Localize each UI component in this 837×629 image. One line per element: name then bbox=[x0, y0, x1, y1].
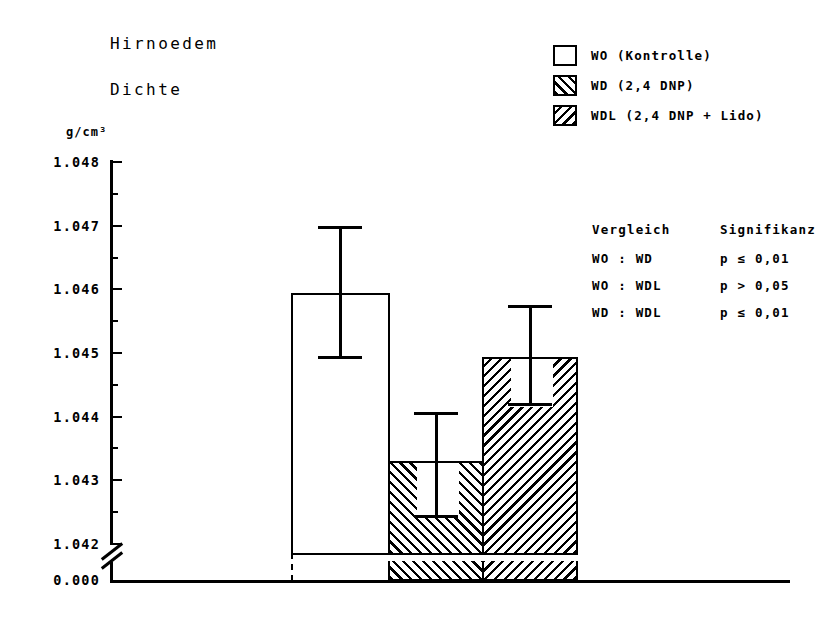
y-tick-major bbox=[113, 479, 122, 481]
error-bar-wo-stem bbox=[339, 226, 342, 358]
error-bar-wo-cap-lower bbox=[318, 356, 362, 359]
legend-swatch-wdl-icon bbox=[553, 105, 577, 126]
error-bar-wo-cap-upper bbox=[318, 226, 362, 229]
legend-label-wd: WD (2,4 DNP) bbox=[591, 78, 695, 93]
legend-swatch-wo-icon bbox=[553, 45, 577, 66]
significance-row: WO : WD p ≤ 0,01 bbox=[592, 251, 816, 266]
y-axis-line-lower bbox=[110, 562, 113, 582]
significance-table: Vergleich Signifikanz WO : WD p ≤ 0,01 W… bbox=[592, 222, 816, 332]
bar-wdl-errorbar-clearing bbox=[511, 359, 553, 407]
error-bar-wd-stem bbox=[435, 412, 438, 517]
significance-row: WO : WDL p > 0,05 bbox=[592, 278, 816, 293]
y-tick-minor bbox=[113, 384, 118, 386]
significance-header-significance: Signifikanz bbox=[720, 222, 816, 237]
y-tick-minor bbox=[113, 447, 118, 449]
y-tick-label: 1.043 bbox=[14, 472, 100, 488]
y-tick-label: 1.044 bbox=[14, 409, 100, 425]
y-tick-label: 1.046 bbox=[14, 281, 100, 297]
chart-figure: Hirnoedem Dichte g/cm³ 1.048 1.047 1.046… bbox=[0, 0, 837, 629]
bar-wd-errorbar-clearing bbox=[417, 463, 459, 517]
significance-comparison: WD : WDL bbox=[592, 305, 720, 320]
significance-row: WD : WDL p ≤ 0,01 bbox=[592, 305, 816, 320]
error-bar-wdl-stem bbox=[529, 305, 532, 405]
significance-header-row: Vergleich Signifikanz bbox=[592, 222, 816, 237]
y-tick-major bbox=[113, 161, 122, 163]
legend-label-wdl: WDL (2,4 DNP + Lido) bbox=[591, 108, 764, 123]
error-bar-wd-cap-upper bbox=[414, 412, 458, 415]
y-tick-major bbox=[113, 288, 122, 290]
chart-subtitle: Dichte bbox=[110, 80, 182, 99]
bar-wdl-baseline-stub bbox=[482, 561, 578, 581]
legend-item-wd: WD (2,4 DNP) bbox=[553, 72, 764, 99]
significance-pvalue: p ≤ 0,01 bbox=[720, 251, 790, 266]
y-tick-major bbox=[113, 225, 122, 227]
y-tick-major bbox=[113, 416, 122, 418]
significance-comparison: WO : WD bbox=[592, 251, 720, 266]
error-bar-wdl-cap-upper bbox=[508, 305, 552, 308]
bar-wo-baseline-dash bbox=[291, 553, 293, 581]
y-tick-label: 0.000 bbox=[14, 572, 100, 588]
legend: WO (Kontrolle) WD (2,4 DNP) WDL (2,4 DNP… bbox=[553, 42, 764, 132]
chart-title: Hirnoedem bbox=[110, 34, 218, 53]
legend-item-wo: WO (Kontrolle) bbox=[553, 42, 764, 69]
legend-swatch-wd-icon bbox=[553, 75, 577, 96]
error-bar-wd-cap-lower bbox=[414, 515, 458, 518]
significance-comparison: WO : WDL bbox=[592, 278, 720, 293]
y-tick-minor bbox=[113, 257, 118, 259]
y-tick-label: 1.048 bbox=[14, 154, 100, 170]
legend-item-wdl: WDL (2,4 DNP + Lido) bbox=[553, 102, 764, 129]
significance-pvalue: p > 0,05 bbox=[720, 278, 790, 293]
bar-wd-baseline-stub bbox=[388, 561, 484, 581]
y-tick-label: 1.045 bbox=[14, 345, 100, 361]
y-tick-label: 1.047 bbox=[14, 218, 100, 234]
y-axis-unit-label: g/cm³ bbox=[66, 125, 107, 139]
significance-pvalue: p ≤ 0,01 bbox=[720, 305, 790, 320]
y-tick-minor bbox=[113, 320, 118, 322]
legend-label-wo: WO (Kontrolle) bbox=[591, 48, 712, 63]
y-tick-minor bbox=[113, 511, 118, 513]
y-tick-label: 1.042 bbox=[14, 536, 100, 552]
error-bar-wdl-cap-lower bbox=[508, 403, 552, 406]
y-tick-minor bbox=[113, 193, 118, 195]
y-tick-major bbox=[113, 352, 122, 354]
significance-header-comparison: Vergleich bbox=[592, 222, 720, 237]
